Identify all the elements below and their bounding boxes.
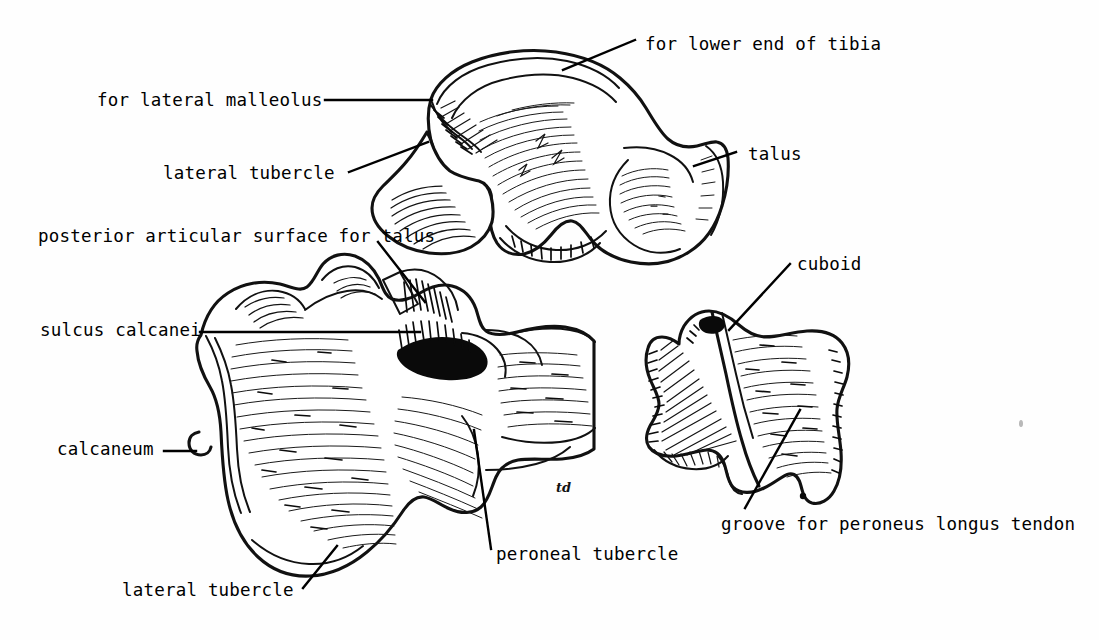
cuboid-top-nick <box>699 316 725 334</box>
label-peroneal-tubercle: peroneal tubercle <box>496 546 679 564</box>
label-lateral-tubercle-calcaneum: lateral tubercle <box>122 582 294 600</box>
label-cuboid: cuboid <box>797 256 861 274</box>
leader-cuboid <box>729 264 790 330</box>
cuboid-groove-pit <box>800 493 806 499</box>
artist-signature: td <box>556 480 571 495</box>
label-sulcus-calcanei: sulcus calcanei <box>40 322 201 340</box>
label-groove-for-peroneus-longus-tendon: groove for peroneus longus tendon <box>721 516 1075 534</box>
label-talus: talus <box>748 146 802 164</box>
label-calcaneum: calcaneum <box>57 441 154 459</box>
label-lateral-tubercle-talus: lateral tubercle <box>163 165 335 183</box>
cuboid-drawing <box>646 311 848 503</box>
label-for-lower-end-of-tibia: for lower end of tibia <box>645 36 881 54</box>
paper-speck <box>1019 420 1023 427</box>
label-for-lateral-malleolus: for lateral malleolus <box>97 92 322 110</box>
calcaneum-drawing <box>189 254 595 576</box>
anatomical-figure: for lower end of tibia for lateral malle… <box>0 0 1099 640</box>
label-posterior-articular-surface-for-talus: posterior articular surface for talus <box>38 228 435 246</box>
